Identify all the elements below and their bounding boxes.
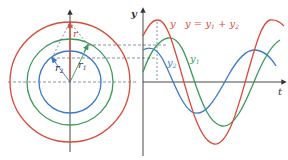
phasor-diagram: r r1 r2	[8, 12, 138, 152]
label-y: y	[169, 18, 176, 29]
time-graph: y t y y = y1 + y2 y1 y2	[130, 8, 284, 156]
y2-curve	[143, 48, 276, 113]
label-r2: r2	[55, 62, 64, 74]
y-axis-label: y	[130, 8, 138, 19]
label-r: r	[73, 28, 79, 39]
phasor-superposition-diagram: r r1 r2 y t y y = y1 + y2 y1 y2	[0, 0, 288, 160]
label-equation: y = y1 + y2	[184, 18, 239, 30]
t-axis-label: t	[278, 86, 283, 97]
r1-arrow-head	[84, 45, 88, 52]
label-r1: r1	[78, 59, 87, 71]
label-y2: y2	[166, 57, 177, 69]
label-y1: y1	[189, 53, 199, 65]
